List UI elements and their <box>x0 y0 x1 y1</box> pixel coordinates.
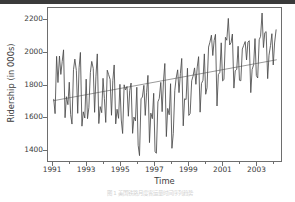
x-tick-label: 1993 <box>69 165 103 174</box>
x-tick-label: 1991 <box>35 165 69 174</box>
x-tick-label: 1995 <box>103 165 137 174</box>
plot-svg <box>48 8 281 161</box>
y-tick-label: 1600 <box>7 113 43 121</box>
plot-area <box>47 7 282 162</box>
x-tick-label: 2003 <box>239 165 273 174</box>
x-tick-mark <box>256 162 257 166</box>
x-tick-mark-minor <box>103 162 104 164</box>
top-dark-band <box>0 0 295 4</box>
x-tick-label: 2001 <box>205 165 239 174</box>
x-tick-mark-minor <box>273 162 274 164</box>
x-tick-mark <box>222 162 223 166</box>
ridership-series-path <box>54 13 276 156</box>
x-tick-mark <box>86 162 87 166</box>
y-tick-mark <box>43 52 47 53</box>
figure-caption: 图 1 美国铁路月度客运量时间序列趋势 <box>55 190 245 197</box>
x-tick-mark <box>120 162 121 166</box>
chart-figure: Ridership (in 000s) 14001600180020002200… <box>0 0 295 202</box>
y-tick-mark <box>43 117 47 118</box>
y-tick-label: 2200 <box>7 15 43 23</box>
x-tick-mark-minor <box>69 162 70 164</box>
x-tick-mark <box>188 162 189 166</box>
y-tick-mark <box>43 150 47 151</box>
y-tick-mark <box>43 85 47 86</box>
x-tick-mark-minor <box>205 162 206 164</box>
x-tick-label: 1997 <box>137 165 171 174</box>
x-tick-label: 1999 <box>171 165 205 174</box>
y-tick-label: 2000 <box>7 48 43 56</box>
x-tick-mark-minor <box>137 162 138 164</box>
x-tick-mark <box>52 162 53 166</box>
y-tick-mark <box>43 19 47 20</box>
y-tick-label: 1400 <box>7 146 43 154</box>
y-tick-label: 1800 <box>7 81 43 89</box>
x-tick-mark-minor <box>171 162 172 164</box>
x-tick-mark <box>154 162 155 166</box>
x-tick-mark-minor <box>239 162 240 164</box>
x-axis-label: Time <box>47 176 282 186</box>
